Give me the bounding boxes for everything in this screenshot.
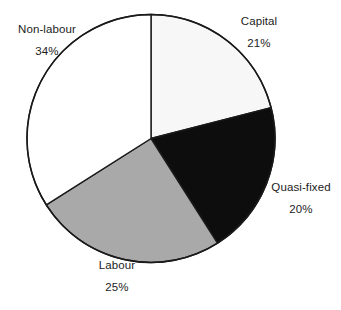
pie-chart: Capital 21% Quasi-fixed 20% Labour 25% N… <box>0 0 341 310</box>
pie-label-quasi-fixed-name: Quasi-fixed <box>264 180 338 195</box>
pie-label-non-labour-value: 34% <box>6 44 88 59</box>
pie-label-capital: Capital 21% <box>224 14 294 51</box>
pie-label-non-labour: Non-labour 34% <box>6 22 88 59</box>
pie-label-quasi-fixed-value: 20% <box>264 202 338 217</box>
pie-label-capital-value: 21% <box>224 36 294 51</box>
pie-label-non-labour-name: Non-labour <box>6 22 88 37</box>
pie-label-labour-name: Labour <box>82 258 152 273</box>
pie-label-quasi-fixed: Quasi-fixed 20% <box>264 180 338 217</box>
pie-label-labour-value: 25% <box>82 280 152 295</box>
pie-label-labour: Labour 25% <box>82 258 152 295</box>
pie-label-capital-name: Capital <box>224 14 294 29</box>
